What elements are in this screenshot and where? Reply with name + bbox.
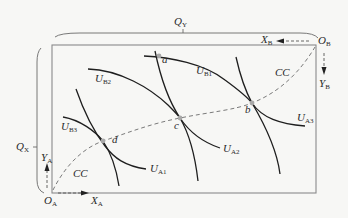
point-d-marker bbox=[101, 139, 106, 144]
width-bracket bbox=[55, 33, 318, 38]
ua2-label: UA2 bbox=[223, 143, 240, 156]
ua3-label: UA3 bbox=[297, 112, 314, 125]
contract-curve-label-upper: CC bbox=[275, 67, 290, 78]
ub2-label: UB2 bbox=[95, 73, 111, 86]
point-d-label: d bbox=[112, 134, 118, 145]
ua1-label: UA1 bbox=[150, 163, 167, 176]
contract-curve-label-lower: CC bbox=[73, 168, 88, 179]
origin-b-label: OB bbox=[318, 35, 331, 48]
yb-label: YB bbox=[319, 78, 330, 91]
xb-arrowhead-icon bbox=[276, 39, 284, 44]
indifference-curve-ua3 bbox=[236, 57, 305, 126]
height-bracket bbox=[37, 48, 44, 193]
point-b-label: b bbox=[245, 104, 251, 115]
ub1-label: UB1 bbox=[196, 65, 212, 78]
ub3-label: UB3 bbox=[61, 121, 77, 134]
ya-label: YA bbox=[41, 152, 52, 165]
xb-label: XB bbox=[261, 34, 272, 47]
qx-label: QX bbox=[16, 141, 29, 154]
qy-label: QY bbox=[174, 16, 187, 29]
point-c-label: c bbox=[174, 120, 179, 131]
yb-arrowhead-icon bbox=[322, 67, 327, 75]
point-a-marker bbox=[157, 54, 162, 59]
xa-label: XA bbox=[91, 195, 103, 208]
xa-arrowhead-icon bbox=[81, 191, 89, 196]
origin-a-label: OA bbox=[44, 195, 57, 208]
point-a-label: a bbox=[162, 54, 168, 65]
edgeworth-box-diagram bbox=[0, 0, 348, 218]
